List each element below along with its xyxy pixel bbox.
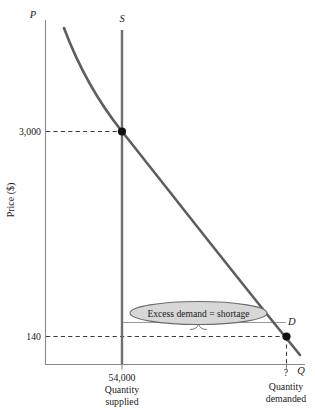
y-axis-title: Price ($) [5, 183, 17, 218]
y-tick-label-140: 140 [26, 331, 41, 342]
equilibrium-point [118, 127, 126, 135]
guide-lines-group [46, 132, 287, 364]
shortage-callout-text: Excess demand = shortage [147, 308, 249, 319]
quantity-demanded-point [282, 332, 290, 340]
supply-curve-label: S [119, 13, 125, 24]
x-tick-label-question: ? [284, 367, 288, 378]
x-tick-label-54000: 54,000 [109, 372, 136, 383]
x-axis-symbol: Q [297, 365, 305, 376]
chart-canvas: P Q Price ($) S D 3,000 140 [0, 0, 315, 410]
footer-quantity-demanded-line2: demanded [266, 393, 306, 404]
y-axis-symbol: P [29, 9, 37, 20]
y-tick-label-3000: 3,000 [19, 126, 41, 137]
footer-quantity-demanded-line1: Quantity [269, 381, 303, 392]
footer-quantity-supplied-line2: supplied [105, 396, 138, 407]
footer-quantity-supplied-line1: Quantity [105, 384, 139, 395]
demand-curve-label: D [287, 316, 296, 327]
shortage-callout: Excess demand = shortage [130, 302, 267, 325]
supply-demand-figure: P Q Price ($) S D 3,000 140 [0, 0, 315, 410]
